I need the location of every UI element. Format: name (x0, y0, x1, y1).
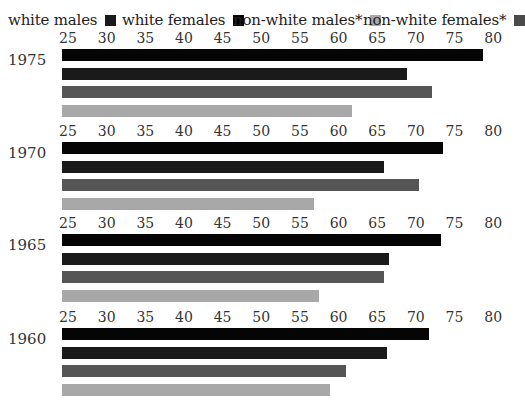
legend-label: white males (8, 11, 97, 29)
year-label: 1965 (8, 236, 46, 254)
x-tick-label: 50 (252, 309, 270, 325)
bar-non-white-males (62, 105, 352, 117)
x-tick-label: 60 (330, 30, 348, 46)
x-tick-label: 55 (291, 215, 309, 231)
year-label: 1960 (8, 330, 46, 348)
x-tick-label: 30 (98, 215, 116, 231)
bar-non-white-males (62, 198, 314, 210)
bar-non-white-females (62, 179, 419, 191)
bar-non-white-females (62, 365, 346, 377)
x-tick-label: 40 (175, 215, 193, 231)
x-tick-label: 75 (446, 30, 464, 46)
x-tick-label: 30 (98, 30, 116, 46)
x-tick-label: 35 (136, 30, 154, 46)
bar-white-females (62, 142, 443, 154)
x-tick-label: 55 (291, 309, 309, 325)
bar-non-white-females (62, 86, 432, 98)
x-tick-label: 80 (484, 215, 502, 231)
x-tick-label: 65 (368, 309, 386, 325)
legend-swatch (514, 15, 525, 26)
x-tick-label: 65 (368, 215, 386, 231)
x-tick-label: 70 (407, 309, 425, 325)
x-tick-label: 25 (59, 215, 77, 231)
bar-white-males (62, 347, 387, 359)
x-tick-label: 50 (252, 123, 270, 139)
bar-white-females (62, 49, 483, 61)
x-tick-label: 70 (407, 123, 425, 139)
panel-1960: 2530354045505560657075801960 (0, 309, 514, 401)
x-tick-label: 75 (446, 215, 464, 231)
legend-swatch (105, 15, 116, 26)
x-tick-label: 40 (175, 123, 193, 139)
panel-1970: 2530354045505560657075801970 (0, 123, 514, 215)
legend-label: white females (122, 11, 225, 29)
legend-item-nonwhite-females: non-white females* (363, 10, 525, 30)
x-tick-label: 30 (98, 309, 116, 325)
x-tick-label: 55 (291, 123, 309, 139)
x-tick-label: 35 (136, 123, 154, 139)
bar-white-females (62, 328, 429, 340)
x-tick-label: 75 (446, 309, 464, 325)
x-tick-label: 65 (368, 123, 386, 139)
bar-white-males (62, 161, 384, 173)
bar-white-males (62, 68, 407, 80)
x-tick-label: 60 (330, 309, 348, 325)
x-tick-label: 60 (330, 123, 348, 139)
x-tick-label: 30 (98, 123, 116, 139)
bar-non-white-males (62, 384, 330, 396)
x-tick-label: 75 (446, 123, 464, 139)
panel-1965: 2530354045505560657075801965 (0, 215, 514, 307)
x-tick-label: 45 (214, 123, 232, 139)
x-tick-label: 80 (484, 30, 502, 46)
x-tick-label: 25 (59, 309, 77, 325)
chart-legend: white males white females non-white male… (0, 10, 514, 30)
x-tick-label: 35 (136, 309, 154, 325)
x-tick-label: 45 (214, 215, 232, 231)
x-tick-label: 40 (175, 309, 193, 325)
panel-1975: 2530354045505560657075801975 (0, 30, 514, 122)
year-label: 1970 (8, 144, 46, 162)
x-tick-label: 25 (59, 30, 77, 46)
legend-label: non-white females* (363, 11, 506, 29)
x-tick-label: 65 (368, 30, 386, 46)
x-tick-label: 35 (136, 215, 154, 231)
x-tick-label: 45 (214, 30, 232, 46)
x-tick-label: 25 (59, 123, 77, 139)
x-tick-label: 50 (252, 30, 270, 46)
x-tick-label: 45 (214, 309, 232, 325)
legend-item-nonwhite-males: non-white males* (233, 10, 381, 30)
x-tick-label: 50 (252, 215, 270, 231)
legend-item-white-males: white males (8, 10, 116, 30)
x-tick-label: 70 (407, 30, 425, 46)
x-tick-label: 55 (291, 30, 309, 46)
x-tick-label: 80 (484, 123, 502, 139)
x-tick-label: 70 (407, 215, 425, 231)
bar-white-males (62, 253, 389, 265)
x-tick-label: 40 (175, 30, 193, 46)
bar-non-white-females (62, 271, 384, 283)
bar-white-females (62, 234, 441, 246)
legend-item-white-females: white females (122, 10, 244, 30)
x-tick-label: 80 (484, 309, 502, 325)
x-tick-label: 60 (330, 215, 348, 231)
bar-non-white-males (62, 290, 319, 302)
year-label: 1975 (8, 51, 46, 69)
legend-label: non-white males* (233, 11, 362, 29)
